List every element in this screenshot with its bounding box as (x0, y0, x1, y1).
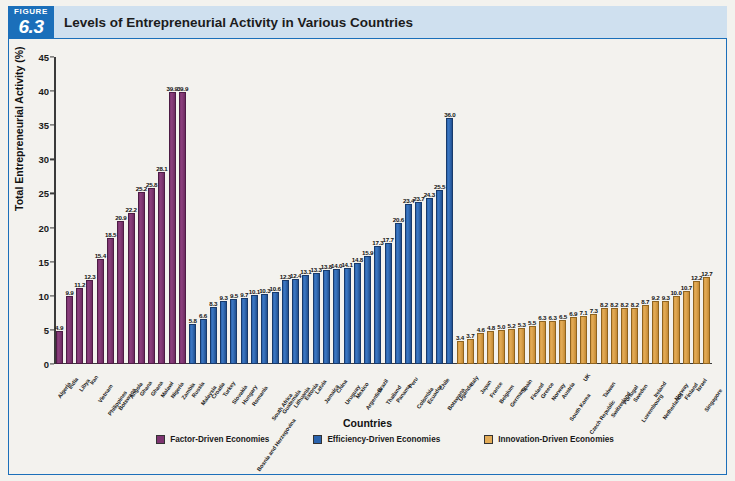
bar-slot: 36.0 (445, 57, 455, 364)
bar[interactable]: 12.7 (703, 277, 710, 364)
bar[interactable]: 6.6 (200, 319, 207, 364)
bar[interactable]: 9.5 (230, 299, 237, 364)
bar-slot: 6.3 (537, 57, 547, 364)
legend-item[interactable]: Efficiency-Driven Economies (313, 435, 440, 444)
x-tick-slot: Italy (465, 364, 475, 416)
bar[interactable]: 20.6 (395, 223, 402, 364)
bar[interactable]: 14.1 (344, 268, 351, 364)
figure-badge-kicker: FIGURE (14, 8, 48, 16)
x-tick-slot: Nigeria (167, 364, 177, 416)
bar-value-label: 12.7 (701, 270, 712, 277)
bar[interactable]: 9.9 (66, 296, 73, 364)
bar[interactable]: 9.3 (662, 301, 669, 364)
bar[interactable]: 8.2 (611, 308, 618, 364)
bar[interactable]: 17.3 (374, 246, 381, 364)
bar[interactable]: 9.3 (220, 301, 227, 364)
bar[interactable]: 13.3 (313, 273, 320, 364)
bar[interactable]: 25.2 (138, 192, 145, 364)
bar[interactable]: 9.2 (652, 301, 659, 364)
bar[interactable]: 6.5 (559, 320, 566, 364)
bar[interactable]: 10.1 (251, 295, 258, 364)
x-tick-slot: Latvia (311, 364, 321, 416)
legend-item[interactable]: Innovation-Driven Economies (484, 435, 614, 444)
bar[interactable]: 18.5 (107, 238, 114, 364)
bar-value-label: 5.0 (497, 323, 505, 330)
bar[interactable]: 4.6 (477, 333, 484, 364)
bar[interactable]: 15.9 (364, 256, 371, 364)
bar[interactable]: 8.2 (631, 308, 638, 364)
bar[interactable]: 3.7 (467, 339, 474, 364)
bar[interactable]: 5.3 (518, 328, 525, 364)
bar[interactable]: 5.8 (189, 324, 196, 364)
bar-slot: 18.5 (105, 57, 115, 364)
bar[interactable]: 15.4 (97, 259, 104, 364)
bar[interactable]: 12.2 (693, 281, 700, 364)
bar[interactable]: 3.4 (457, 341, 464, 364)
bar[interactable]: 12.4 (292, 279, 299, 364)
bar-value-label: 5.8 (189, 317, 197, 324)
x-tick-slot: South Korea (568, 364, 578, 416)
bar[interactable]: 10.6 (272, 292, 279, 364)
bar[interactable]: 12.3 (282, 280, 289, 364)
bar[interactable]: 23.4 (405, 204, 412, 364)
bar[interactable]: 36.0 (446, 118, 453, 364)
bar-value-label: 20.9 (115, 214, 126, 221)
bar[interactable]: 17.7 (385, 243, 392, 364)
bar-value-label: 5.5 (528, 319, 536, 326)
bar-slot: 17.3 (373, 57, 383, 364)
bar[interactable]: 10.0 (673, 296, 680, 364)
bar-slot: 6.5 (558, 57, 568, 364)
bar[interactable]: 13.8 (323, 270, 330, 364)
bar[interactable]: 5.0 (498, 330, 505, 364)
bar[interactable]: 4.9 (56, 331, 63, 364)
bar[interactable]: 14.8 (354, 263, 361, 364)
x-tick-slot: Ireland (650, 364, 660, 416)
bar[interactable]: 9.7 (241, 298, 248, 364)
bar[interactable]: 12.3 (86, 280, 93, 364)
bar[interactable]: 10.7 (683, 291, 690, 364)
bar[interactable]: 8.3 (210, 307, 217, 364)
bar[interactable]: 22.2 (128, 213, 135, 364)
bar[interactable]: 25.5 (436, 190, 443, 364)
bar[interactable]: 6.9 (570, 317, 577, 364)
bar-value-label: 6.9 (569, 310, 577, 317)
bar[interactable]: 10.3 (261, 294, 268, 364)
bar[interactable]: 7.1 (580, 316, 587, 364)
bar[interactable]: 11.2 (76, 288, 83, 364)
bar[interactable]: 24.3 (426, 198, 433, 364)
bar[interactable]: 8.7 (642, 305, 649, 364)
x-tick-slot: Romania (249, 364, 259, 416)
bar-value-label: 25.8 (146, 181, 157, 188)
bar-slot: 20.6 (393, 57, 403, 364)
bar[interactable]: 5.5 (529, 326, 536, 364)
bar-slot: 10.3 (260, 57, 270, 364)
legend-item[interactable]: Factor-Driven Economies (156, 435, 269, 444)
x-tick-slot: China (332, 364, 342, 416)
bar-slot: 8.2 (630, 57, 640, 364)
bar[interactable]: 8.2 (601, 308, 608, 364)
bar[interactable]: 39.9 (169, 92, 176, 364)
bar-value-label: 8.7 (641, 298, 649, 305)
bar[interactable]: 5.2 (508, 329, 515, 364)
bar[interactable]: 23.7 (415, 202, 422, 364)
legend-label: Efficiency-Driven Economies (327, 435, 440, 444)
bar-slot: 23.7 (414, 57, 424, 364)
bar[interactable]: 8.2 (621, 308, 628, 364)
bar-value-label: 7.3 (590, 307, 598, 314)
bar-value-label: 10.7 (681, 284, 692, 291)
x-tick-slot: France (486, 364, 496, 416)
bar[interactable]: 25.8 (148, 188, 155, 364)
bar[interactable]: 13.1 (302, 275, 309, 364)
bar[interactable]: 20.9 (117, 221, 124, 364)
bar[interactable]: 28.1 (158, 172, 165, 364)
bar[interactable]: 6.3 (549, 321, 556, 364)
x-tick-slot: Hungary (239, 364, 249, 416)
bar[interactable]: 14.0 (333, 269, 340, 365)
bar[interactable]: 6.3 (539, 321, 546, 364)
bar[interactable]: 39.9 (179, 92, 186, 364)
bar[interactable]: 4.8 (487, 331, 494, 364)
x-tick-slot: Vietnam (95, 364, 105, 416)
x-tick-slot: Sweden (630, 364, 640, 416)
x-tick-slot: Turkey (219, 364, 229, 416)
bar[interactable]: 7.3 (590, 314, 597, 364)
